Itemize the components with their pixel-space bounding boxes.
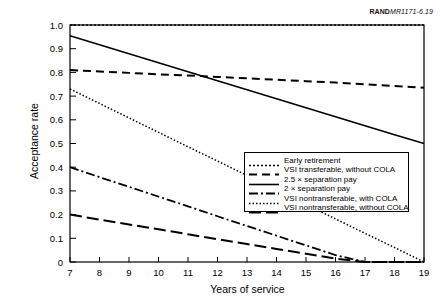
- data-series-line: [70, 36, 424, 144]
- y-tick-label: 0.7: [50, 91, 63, 102]
- legend-item: 2 × separation pay: [249, 184, 404, 193]
- legend-item: VSI transferable, without COLA: [249, 165, 404, 174]
- data-series-layer: [70, 25, 424, 262]
- legend-item-label: VSI nontransferable, without COLA: [284, 203, 409, 212]
- y-tick-label: 0.3: [50, 185, 63, 196]
- legend-item-label: Early retirement: [284, 156, 340, 165]
- legend-line-swatch: [249, 203, 279, 212]
- legend-line-swatch: [249, 194, 279, 203]
- y-axis-ticks: 00.10.20.30.40.50.60.70.80.91.0: [50, 20, 76, 268]
- y-tick-label: 0.2: [50, 209, 63, 220]
- legend-item-label: VSI transferable, without COLA: [284, 165, 395, 174]
- y-tick-label: 0.6: [50, 114, 63, 125]
- legend-item: 2.5 × separation pay: [249, 175, 404, 184]
- plot-frame: [70, 25, 424, 262]
- legend-item: Early retirement: [249, 156, 404, 165]
- legend-item: VSI nontransferable, without COLA: [249, 203, 404, 212]
- x-tick-label: 9: [126, 267, 131, 278]
- x-tick-label: 14: [271, 267, 282, 278]
- y-tick-label: 0.1: [50, 233, 63, 244]
- x-axis-ticks: 78910111213141516171819: [67, 257, 429, 278]
- x-tick-label: 19: [419, 267, 430, 278]
- y-tick-label: 0.5: [50, 138, 63, 149]
- y-tick-label: 0: [58, 257, 63, 268]
- legend-item-label: 2.5 × separation pay: [284, 175, 357, 184]
- x-tick-label: 10: [153, 267, 164, 278]
- legend-item: VSI nontransferable, with COLA: [249, 194, 404, 203]
- legend-item-label: 2 × separation pay: [284, 184, 350, 193]
- x-axis-title: Years of service: [70, 283, 425, 295]
- legend-line-swatch: [249, 175, 279, 184]
- y-tick-label: 0.9: [50, 43, 63, 54]
- legend-line-swatch: [249, 184, 279, 193]
- y-tick-label: 0.4: [50, 162, 63, 173]
- x-tick-label: 7: [67, 267, 72, 278]
- x-tick-label: 15: [301, 267, 312, 278]
- x-tick-label: 12: [212, 267, 223, 278]
- legend: Early retirementVSI transferable, withou…: [244, 152, 409, 212]
- x-tick-label: 8: [97, 267, 102, 278]
- legend-item-label: VSI nontransferable, with COLA: [284, 194, 397, 203]
- y-axis-title: Acceptance rate: [28, 61, 40, 221]
- data-series-line: [70, 70, 424, 88]
- legend-line-swatch: [249, 156, 279, 165]
- x-tick-label: 13: [242, 267, 253, 278]
- x-tick-label: 16: [330, 267, 341, 278]
- y-tick-label: 0.8: [50, 67, 63, 78]
- y-tick-label: 1.0: [50, 20, 63, 31]
- x-tick-label: 17: [360, 267, 371, 278]
- x-tick-label: 18: [389, 267, 400, 278]
- legend-line-swatch: [249, 165, 279, 174]
- data-series-line: [70, 215, 424, 262]
- x-tick-label: 11: [183, 267, 193, 278]
- chart-figure: RANDMR1171-6.19 78910111213141516171819 …: [0, 0, 441, 307]
